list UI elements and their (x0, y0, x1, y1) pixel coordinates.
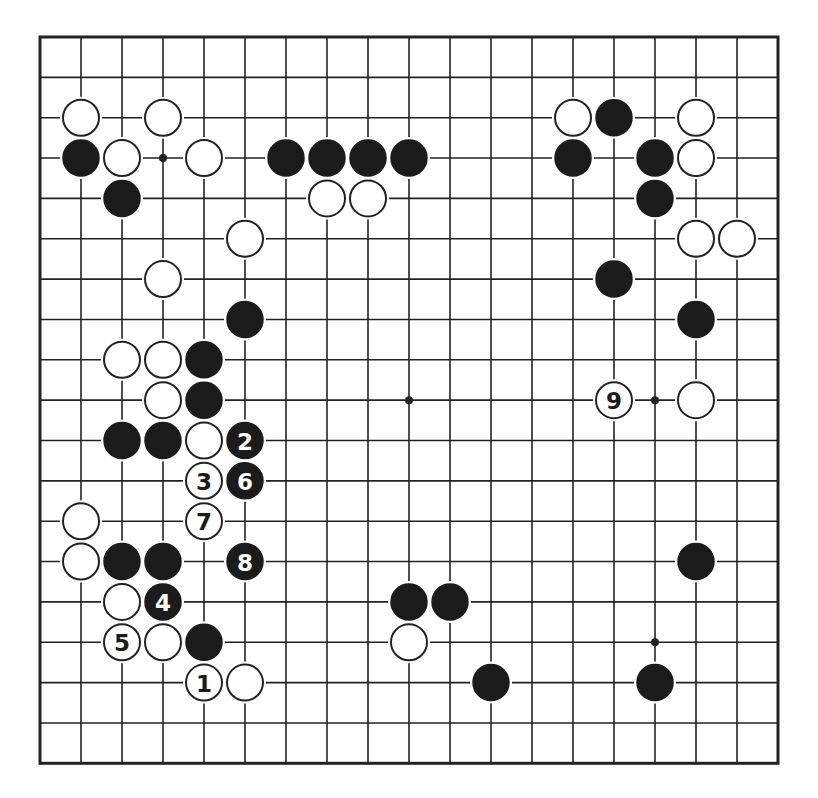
black-stone (224, 298, 266, 340)
white-stone-move-3: 3 (183, 460, 225, 502)
move-number: 5 (114, 630, 130, 656)
white-stone (60, 97, 102, 139)
black-stone (306, 137, 348, 179)
white-stone (101, 581, 143, 623)
black-stone (101, 541, 143, 583)
go-board: 923678451 (0, 0, 818, 798)
black-stone (265, 137, 307, 179)
star-point (651, 396, 659, 404)
black-stone (101, 177, 143, 219)
black-stone (429, 581, 471, 623)
black-stone (142, 541, 184, 583)
black-stone (634, 137, 676, 179)
white-stone (142, 97, 184, 139)
white-stone (552, 97, 594, 139)
white-stone (675, 97, 717, 139)
white-stone (675, 137, 717, 179)
white-stone (60, 500, 102, 542)
black-stone (634, 662, 676, 704)
white-stone (142, 621, 184, 663)
black-stone (183, 379, 225, 421)
black-stone (675, 298, 717, 340)
black-stone-move-6: 6 (224, 460, 266, 502)
white-stone (224, 662, 266, 704)
black-stone (634, 177, 676, 219)
white-stone (388, 621, 430, 663)
white-stone (224, 218, 266, 260)
black-stone (593, 258, 635, 300)
black-stone (183, 621, 225, 663)
black-stone (675, 541, 717, 583)
black-stone (60, 137, 102, 179)
black-stone (347, 137, 389, 179)
star-point (159, 154, 167, 162)
white-stone-move-5: 5 (101, 621, 143, 663)
black-stone (142, 420, 184, 462)
move-number: 4 (155, 590, 171, 616)
black-stone (388, 137, 430, 179)
black-stone-move-2: 2 (224, 420, 266, 462)
black-stone (183, 339, 225, 381)
white-stone (142, 379, 184, 421)
white-stone (183, 420, 225, 462)
white-stone-move-1: 1 (183, 662, 225, 704)
star-point (651, 638, 659, 646)
black-stone (470, 662, 512, 704)
move-number: 6 (237, 469, 253, 495)
white-stone (306, 177, 348, 219)
black-stone-move-8: 8 (224, 541, 266, 583)
move-number: 3 (196, 469, 212, 495)
move-number: 9 (606, 388, 622, 414)
white-stone (60, 541, 102, 583)
white-stone (675, 379, 717, 421)
move-number: 8 (237, 550, 253, 576)
move-number: 2 (237, 429, 253, 455)
white-stone (101, 339, 143, 381)
black-stone (388, 581, 430, 623)
white-stone (183, 137, 225, 179)
white-stone-move-9: 9 (593, 379, 635, 421)
white-stone (347, 177, 389, 219)
star-point (405, 396, 413, 404)
move-number: 1 (196, 671, 212, 697)
white-stone (675, 218, 717, 260)
black-stone-move-4: 4 (142, 581, 184, 623)
white-stone-move-7: 7 (183, 500, 225, 542)
white-stone (142, 258, 184, 300)
black-stone (593, 97, 635, 139)
move-number: 7 (196, 509, 212, 535)
black-stone (552, 137, 594, 179)
go-board-diagram: 923678451 (0, 0, 818, 798)
black-stone (101, 420, 143, 462)
white-stone (142, 339, 184, 381)
white-stone (716, 218, 758, 260)
white-stone (101, 137, 143, 179)
